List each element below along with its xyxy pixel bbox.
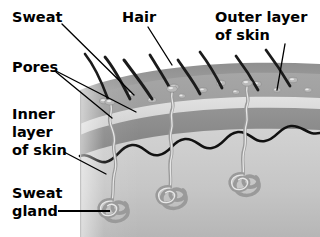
label-sweat-gland: Sweatgland <box>12 185 62 219</box>
diagram-canvas: Sweat Hair Outer layerof skin Pores Inne… <box>0 0 320 237</box>
label-pores: Pores <box>12 59 58 75</box>
label-sweat: Sweat <box>12 9 62 25</box>
label-hair: Hair <box>122 9 157 25</box>
pore-opening <box>167 86 178 92</box>
sweat-droplet <box>288 77 297 82</box>
sweat-droplet <box>232 90 240 95</box>
label-inner-layer-of-skin: Innerlayerof skin <box>12 106 67 158</box>
pore-opening <box>242 80 253 86</box>
label-outer-layer-of-skin: Outer layerof skin <box>215 9 308 43</box>
skin-cross-section-diagram: Sweat Hair Outer layerof skin Pores Inne… <box>0 0 320 237</box>
sweat-droplet <box>178 94 185 98</box>
sweat-droplet <box>304 88 312 93</box>
